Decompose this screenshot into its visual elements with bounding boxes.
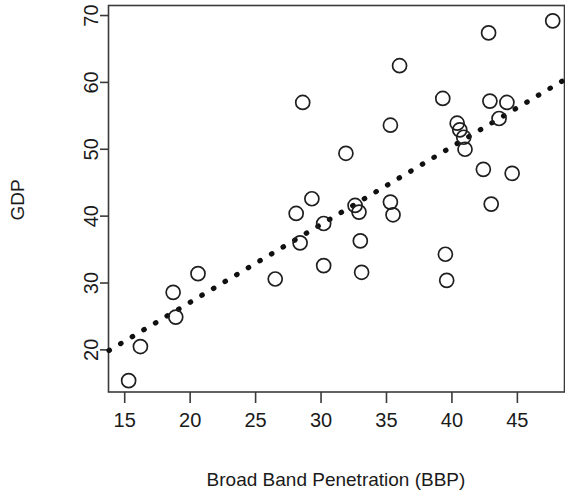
y-tick-label: 40 xyxy=(80,205,102,227)
data-point xyxy=(169,310,183,324)
data-point xyxy=(296,95,310,109)
y-tick-label: 70 xyxy=(80,4,102,26)
x-tick-label: 15 xyxy=(114,409,136,431)
data-point xyxy=(483,94,497,108)
data-point xyxy=(482,26,496,40)
y-axis: 203040506070 xyxy=(80,4,109,361)
y-tick-label: 20 xyxy=(80,339,102,361)
data-point xyxy=(505,166,519,180)
x-tick-label: 40 xyxy=(441,409,463,431)
x-axis: 15202530354045 xyxy=(114,392,529,431)
data-point xyxy=(191,267,205,281)
data-point xyxy=(546,14,560,28)
y-tick-label: 30 xyxy=(80,272,102,294)
data-point xyxy=(268,272,282,286)
data-point xyxy=(122,374,136,388)
data-point xyxy=(353,234,367,248)
x-axis-title: Broad Band Penetration (BBP) xyxy=(207,469,466,490)
data-point xyxy=(476,162,490,176)
data-point xyxy=(293,236,307,250)
data-point xyxy=(438,247,452,261)
x-tick-label: 35 xyxy=(375,409,397,431)
data-point xyxy=(317,216,331,230)
scatter-chart-figure: 203040506070 15202530354045 GDP Broad Ba… xyxy=(0,0,565,500)
data-point xyxy=(500,95,514,109)
y-tick-label: 50 xyxy=(80,138,102,160)
x-tick-label: 20 xyxy=(179,409,201,431)
data-point xyxy=(386,208,400,222)
data-point xyxy=(339,146,353,160)
data-point xyxy=(317,259,331,273)
x-tick-label: 45 xyxy=(506,409,528,431)
data-point xyxy=(383,195,397,209)
data-points xyxy=(122,14,560,388)
data-point xyxy=(166,285,180,299)
plot-canvas: 203040506070 15202530354045 GDP Broad Ba… xyxy=(0,0,565,500)
data-point xyxy=(383,118,397,132)
x-tick-label: 30 xyxy=(310,409,332,431)
x-tick-label: 25 xyxy=(244,409,266,431)
data-point xyxy=(133,340,147,354)
data-point xyxy=(305,192,319,206)
y-tick-label: 60 xyxy=(80,71,102,93)
data-point xyxy=(484,197,498,211)
y-axis-title: GDP xyxy=(7,179,28,220)
data-point xyxy=(436,91,450,105)
data-point xyxy=(289,206,303,220)
data-point xyxy=(355,265,369,279)
data-point xyxy=(440,273,454,287)
data-point xyxy=(393,59,407,73)
